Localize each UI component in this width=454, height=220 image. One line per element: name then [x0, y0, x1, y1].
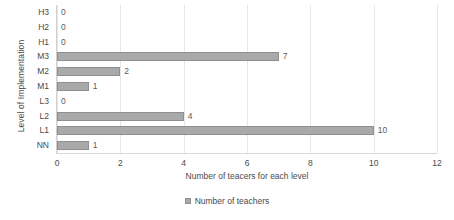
bar: [57, 126, 374, 135]
bar-value-label: 0: [61, 21, 66, 33]
legend: Number of teachers: [0, 196, 454, 206]
bar-value-label: 0: [61, 36, 66, 48]
y-axis-tick-label: L1: [40, 123, 49, 138]
bar: [57, 82, 89, 91]
x-axis-tick-label: 6: [245, 156, 250, 170]
bar-chart: Level of Implementation H3H2H1M3M2M1L3L2…: [0, 0, 454, 220]
y-axis-tick-label: H2: [38, 20, 49, 35]
x-axis-line: [56, 153, 437, 154]
legend-swatch-icon: [185, 198, 191, 204]
bar: [57, 141, 89, 150]
bar: [57, 52, 279, 61]
bar: [57, 67, 120, 76]
bar-row: 0: [57, 20, 437, 35]
x-axis-tick-labels: 024681012: [57, 156, 437, 170]
y-axis-tick-label: M3: [37, 49, 49, 64]
x-axis-tick-label: 8: [308, 156, 313, 170]
bar-value-label: 1: [93, 139, 98, 151]
y-axis-tick-label: L2: [40, 109, 49, 124]
bar-row: 1: [57, 79, 437, 94]
bar-row: 1: [57, 138, 437, 153]
bar-value-label: 0: [61, 95, 66, 107]
x-axis-tick-label: 2: [118, 156, 123, 170]
x-axis-tick-label: 4: [181, 156, 186, 170]
bar-value-label: 7: [283, 50, 288, 62]
y-axis-tick-label: M1: [37, 79, 49, 94]
gridline: [437, 5, 438, 153]
y-axis-tick-label: NN: [37, 138, 49, 153]
x-axis-tick-label: 10: [369, 156, 378, 170]
bar-row: 4: [57, 109, 437, 124]
y-axis-tick-label: L3: [40, 94, 49, 109]
y-axis-tick-label: H1: [38, 35, 49, 50]
bar-value-label: 0: [61, 6, 66, 18]
bar-value-label: 2: [124, 65, 129, 77]
bar-row: 0: [57, 35, 437, 50]
y-axis-tick-label: H3: [38, 5, 49, 20]
y-axis-tick-label: M2: [37, 64, 49, 79]
bar-row: 0: [57, 5, 437, 20]
bar-row: 7: [57, 49, 437, 64]
bar-value-label: 10: [378, 124, 387, 136]
x-axis-tick-label: 12: [432, 156, 441, 170]
bar-row: 2: [57, 64, 437, 79]
y-axis-tick-labels: H3H2H1M3M2M1L3L2L1NN: [0, 5, 53, 153]
x-axis-title: Number of teacers for each level: [57, 171, 437, 181]
bar: [57, 112, 184, 121]
bar-row: 0: [57, 94, 437, 109]
legend-label: Number of teachers: [195, 196, 270, 206]
bar-value-label: 4: [188, 110, 193, 122]
bar-value-label: 1: [93, 80, 98, 92]
x-axis-tick-label: 0: [55, 156, 60, 170]
plot-area: 00072104101: [57, 5, 437, 153]
bar-row: 10: [57, 123, 437, 138]
